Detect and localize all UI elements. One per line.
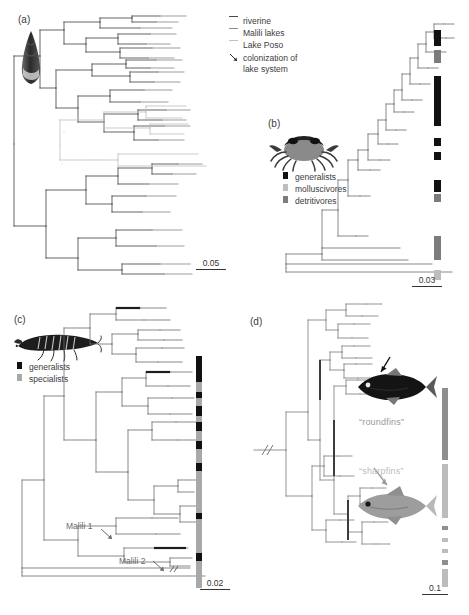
trait-segment xyxy=(442,388,448,460)
malili-1-arrow-icon xyxy=(100,528,116,542)
panel-a-scale-label: 0.05 xyxy=(203,258,220,268)
legend-label-riverine: riverine xyxy=(243,16,271,27)
panel-c-trait-bar xyxy=(196,356,202,588)
trait-segment xyxy=(442,549,448,553)
malili-lakes-dash-icon xyxy=(228,28,239,29)
trait-segment xyxy=(434,152,441,160)
legend-label-lake-poso: Lake Poso xyxy=(243,40,283,51)
trait-segment xyxy=(196,382,202,392)
panel-c-scale-label: 0.02 xyxy=(207,578,224,588)
dark-fish-pointer-icon xyxy=(378,355,396,375)
trait-segment xyxy=(434,194,441,202)
panel-b-scale: 0.03 xyxy=(412,275,442,287)
panel-b-label: (b) xyxy=(268,118,280,129)
malili-2-arrow-icon xyxy=(152,560,168,574)
trait-segment xyxy=(434,30,441,46)
trait-segment xyxy=(196,431,202,441)
trait-segment xyxy=(434,76,441,126)
trait-segment xyxy=(442,464,448,518)
panel-d-scale-bar xyxy=(422,594,448,595)
trait-segment xyxy=(196,553,202,561)
trait-segment xyxy=(434,50,441,63)
panel-c-scale-bar xyxy=(200,589,230,590)
trait-segment xyxy=(442,538,448,542)
trait-segment xyxy=(442,560,448,565)
panel-d-scale: 0.1 xyxy=(422,583,448,595)
trait-segment xyxy=(442,526,448,530)
panel-a-scale: 0.05 xyxy=(196,258,226,270)
trait-segment xyxy=(196,356,202,382)
trait-segment xyxy=(196,519,202,553)
panel-c-scale: 0.02 xyxy=(200,578,230,590)
panel-c-annotation-malili-2: Malili 2 xyxy=(119,556,145,566)
legend-label-malili-lakes: Malili lakes xyxy=(243,28,285,39)
panel-d-scale-label: 0.1 xyxy=(429,583,441,593)
colonization-arrow-icon xyxy=(228,53,239,63)
panel-b-scale-bar xyxy=(412,286,442,287)
lake-poso-dash-icon xyxy=(228,40,239,41)
panel-d-annotation-sharpfins: “sharpfins” xyxy=(359,466,404,476)
panel-a-tree xyxy=(0,14,250,276)
panel-b-trait-bar xyxy=(434,20,441,280)
light-fish-icon xyxy=(352,486,438,526)
trait-segment xyxy=(196,463,202,471)
panel-d-annotation-roundfins: “roundfins” xyxy=(359,417,404,427)
trait-segment xyxy=(434,180,441,192)
panel-d-trait-bar xyxy=(442,388,448,573)
trait-segment xyxy=(196,406,202,416)
panel-b-scale-label: 0.03 xyxy=(419,275,436,285)
panel-c-tree xyxy=(20,300,220,580)
riverine-dash-icon xyxy=(228,16,239,17)
panel-d-tree xyxy=(250,300,450,580)
panel-c-annotation-malili-1: Malili 1 xyxy=(66,521,92,531)
trait-segment xyxy=(196,441,202,449)
trait-segment xyxy=(434,138,441,146)
trait-segment xyxy=(196,422,202,431)
panel-a-scale-bar xyxy=(196,269,226,270)
trait-segment xyxy=(434,236,441,260)
trait-segment xyxy=(196,449,202,463)
trait-segment xyxy=(196,398,202,406)
trait-segment xyxy=(196,471,202,513)
panel-a: (a) xyxy=(0,0,250,290)
